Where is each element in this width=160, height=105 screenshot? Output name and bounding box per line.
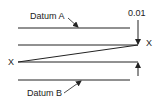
datum-b-leader <box>64 81 81 93</box>
datum-a-leader <box>68 18 78 27</box>
datum-b-label: Datum B <box>27 88 62 98</box>
datum-a-label: Datum A <box>30 11 65 21</box>
diagram-canvas: Datum A Datum B 0.01 X X <box>0 0 160 105</box>
surface-line <box>18 45 138 62</box>
x-label-right: X <box>146 38 152 48</box>
tolerance-value: 0.01 <box>128 8 146 18</box>
x-label-left: X <box>8 57 14 67</box>
flatness-diagram: Datum A Datum B 0.01 X X <box>0 0 160 105</box>
